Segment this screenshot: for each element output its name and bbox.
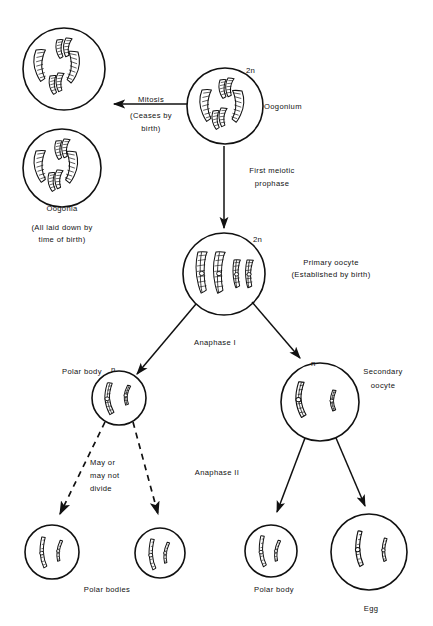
oogenesis-diagram: Mitosis (Ceases by birth) Oogonia (All l… bbox=[0, 0, 433, 626]
label-all-laid-down-line1: (All laid down by bbox=[31, 222, 92, 234]
label-ploidy-n-polar: n bbox=[111, 364, 116, 376]
label-polar-body-lower: Polar body bbox=[254, 584, 294, 596]
label-oogonium: Oogonium bbox=[264, 101, 302, 113]
arrow-anaphase1-left bbox=[137, 304, 196, 374]
label-egg: Egg bbox=[364, 603, 379, 615]
label-all-laid-down-line2: time of birth) bbox=[38, 234, 85, 246]
label-ceases-by-birth-line1: (Ceases by bbox=[130, 110, 172, 122]
cell-oogonia-top bbox=[23, 28, 105, 110]
label-primary-oocyte-line1: Primary oocyte bbox=[303, 257, 359, 269]
label-anaphase-1: Anaphase I bbox=[194, 337, 236, 349]
cell-polar-body-first bbox=[92, 371, 146, 425]
diagram-canvas bbox=[0, 0, 433, 626]
label-secondary-oocyte-line2: oocyte bbox=[371, 380, 395, 392]
arrow-anaphase2-left bbox=[277, 438, 305, 512]
label-divide: divide bbox=[90, 483, 112, 495]
label-ceases-by-birth-line2: birth) bbox=[141, 123, 160, 135]
cell-polar-body-a bbox=[25, 525, 79, 579]
label-oogonia: Oogonia bbox=[46, 203, 77, 215]
label-may-or: May or bbox=[90, 457, 115, 469]
label-polar-bodies: Polar bodies bbox=[84, 584, 130, 596]
label-ploidy-n-secondary: n bbox=[311, 358, 316, 370]
cell-secondary-oocyte bbox=[281, 363, 359, 441]
label-may-not: may not bbox=[90, 470, 119, 482]
arrow-anaphase1-right bbox=[252, 302, 300, 358]
label-first-meiotic-line1: First meiotic bbox=[249, 165, 294, 177]
label-anaphase-2: Anaphase II bbox=[195, 467, 239, 479]
arrow-polar-divide-right bbox=[133, 422, 158, 514]
label-secondary-oocyte-line1: Secondary bbox=[363, 366, 402, 378]
label-first-meiotic-line2: prophase bbox=[255, 178, 289, 190]
cell-oogonia-bottom bbox=[23, 129, 101, 207]
label-ploidy-2n-oogonium: 2n bbox=[246, 65, 255, 77]
cell-polar-body-b bbox=[135, 528, 185, 578]
cell-egg bbox=[331, 514, 407, 590]
label-primary-oocyte-line2: (Established by birth) bbox=[291, 269, 370, 281]
cell-polar-body-c bbox=[245, 525, 297, 577]
label-mitosis: Mitosis bbox=[138, 94, 164, 106]
label-ploidy-2n-primary: 2n bbox=[253, 234, 262, 246]
arrow-anaphase2-right bbox=[336, 438, 365, 506]
label-polar-body-upper: Polar body bbox=[62, 366, 102, 378]
cell-oogonium bbox=[187, 68, 263, 144]
